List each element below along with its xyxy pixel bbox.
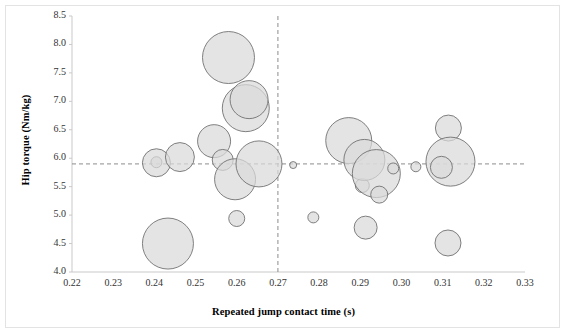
y-tick-label: 8.0: [40, 37, 66, 48]
x-tick-label: 0.32: [464, 277, 504, 288]
y-tick-label: 4.5: [40, 237, 66, 248]
bubble-marker: [308, 212, 319, 223]
y-tick-label: 7.5: [40, 66, 66, 77]
bubble-marker: [165, 143, 194, 172]
x-tick-label: 0.22: [52, 277, 92, 288]
bubble-marker: [435, 230, 461, 256]
x-axis-title: Repeated jump contact time (s): [0, 306, 567, 317]
x-tick-label: 0.25: [176, 277, 216, 288]
y-tick-label: 5.5: [40, 180, 66, 191]
bubble-chart: Hip torque (Nm/kg) Repeated jump contact…: [0, 0, 567, 335]
bubble-marker: [202, 32, 254, 84]
bubble-marker: [142, 218, 193, 269]
y-tick-label: 6.0: [40, 151, 66, 162]
x-tick-label: 0.23: [93, 277, 133, 288]
y-tick-label: 6.5: [40, 123, 66, 134]
y-axis-title: Hip torque (Nm/kg): [20, 10, 31, 270]
y-tick-label: 7.0: [40, 94, 66, 105]
bubble-marker: [236, 141, 282, 187]
x-tick-label: 0.29: [340, 277, 380, 288]
bubble-marker: [354, 216, 377, 239]
y-tick-label: 8.5: [40, 9, 66, 20]
y-tick-label: 4.0: [40, 265, 66, 276]
bubble-marker: [371, 186, 388, 203]
x-tick-label: 0.33: [505, 277, 545, 288]
x-tick-label: 0.31: [423, 277, 463, 288]
y-tick-label: 5.0: [40, 208, 66, 219]
bubble-marker: [229, 211, 245, 227]
bubble-marker: [230, 81, 268, 119]
bubble-marker: [290, 162, 297, 169]
x-tick-label: 0.30: [381, 277, 421, 288]
bubble-marker: [430, 156, 452, 178]
bubble-marker: [388, 163, 399, 174]
x-tick-label: 0.24: [134, 277, 174, 288]
bubble-marker: [411, 162, 421, 172]
x-tick-label: 0.26: [217, 277, 257, 288]
x-tick-label: 0.28: [299, 277, 339, 288]
x-tick-label: 0.27: [258, 277, 298, 288]
